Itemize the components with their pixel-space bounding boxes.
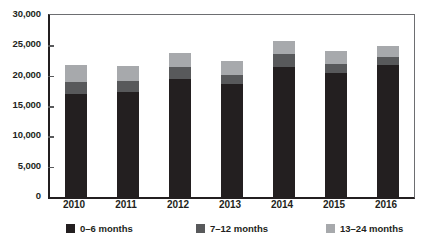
y-tick-label: 10,000 [13, 131, 41, 141]
bar-segment[interactable] [65, 94, 87, 197]
y-tick-label: 25,000 [13, 40, 41, 50]
bar-segment[interactable] [65, 65, 87, 82]
y-tick-mark [48, 167, 54, 169]
y-tick-label: 30,000 [13, 9, 41, 19]
legend-label: 13–24 months [340, 224, 403, 234]
bar-segment[interactable] [221, 61, 243, 75]
bar-group[interactable] [169, 53, 191, 197]
bar-segment[interactable] [325, 51, 347, 63]
y-tick-mark [48, 76, 54, 78]
legend-label: 7–12 months [210, 224, 268, 234]
x-axis-labels: 2010201120122013201420152016 [48, 199, 412, 215]
bar-segment[interactable] [377, 57, 399, 65]
x-tick-label: 2011 [115, 199, 137, 211]
bars-layer [50, 15, 414, 197]
legend-item[interactable]: 7–12 months [196, 224, 268, 234]
legend-label: 0–6 months [80, 224, 133, 234]
y-tick-label: 15,000 [13, 100, 41, 110]
x-tick-label: 2014 [271, 199, 293, 211]
y-tick-label: 5,000 [18, 161, 41, 171]
legend-swatch-icon [66, 224, 75, 233]
bar-segment[interactable] [65, 82, 87, 94]
y-tick-mark [48, 106, 54, 108]
y-tick-label: 20,000 [13, 70, 41, 80]
bar-segment[interactable] [377, 46, 399, 57]
bar-group[interactable] [273, 41, 295, 197]
legend-swatch-icon [196, 224, 205, 233]
bar-segment[interactable] [169, 79, 191, 197]
x-tick-label: 2015 [323, 199, 345, 211]
x-tick-label: 2016 [375, 199, 397, 211]
legend-item[interactable]: 0–6 months [66, 224, 133, 234]
y-tick-mark [48, 136, 54, 138]
plot-area [48, 14, 415, 199]
bar-group[interactable] [325, 51, 347, 197]
bar-segment[interactable] [221, 75, 243, 83]
bar-segment[interactable] [117, 66, 139, 81]
x-tick-label: 2010 [63, 199, 85, 211]
bar-segment[interactable] [169, 67, 191, 79]
bar-segment[interactable] [325, 64, 347, 74]
bar-segment[interactable] [273, 54, 295, 66]
bar-segment[interactable] [221, 84, 243, 197]
y-tick-mark [48, 45, 54, 47]
bar-segment[interactable] [169, 53, 191, 67]
bar-group[interactable] [221, 61, 243, 197]
bar-group[interactable] [377, 46, 399, 197]
y-tick-label: 0 [36, 191, 41, 201]
bar-segment[interactable] [117, 81, 139, 92]
legend-swatch-icon [326, 224, 335, 233]
bar-segment[interactable] [117, 92, 139, 197]
y-axis-labels: 30,00025,00020,00015,00010,0005,0000 [0, 0, 44, 200]
bar-group[interactable] [117, 66, 139, 197]
legend-item[interactable]: 13–24 months [326, 224, 403, 234]
x-tick-label: 2012 [167, 199, 189, 211]
bar-group[interactable] [65, 65, 87, 197]
stacked-bar-chart: 30,00025,00020,00015,00010,0005,0000 201… [0, 0, 421, 245]
chart-legend: 0–6 months7–12 months13–24 months [48, 224, 412, 240]
x-tick-label: 2013 [219, 199, 241, 211]
bar-segment[interactable] [377, 65, 399, 197]
bar-segment[interactable] [273, 67, 295, 197]
bar-segment[interactable] [325, 73, 347, 197]
bar-segment[interactable] [273, 41, 295, 54]
